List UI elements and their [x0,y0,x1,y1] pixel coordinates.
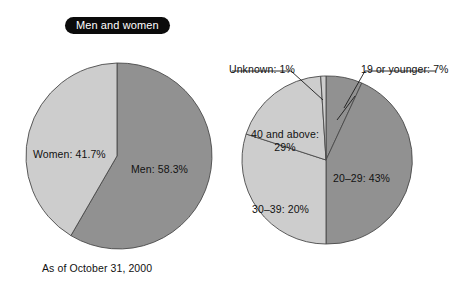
age-groups-pie-chart [0,0,456,294]
pie-label-unknown: Unknown: 1% [229,63,295,76]
pie-label-20-29: 20–29: 43% [333,172,390,185]
pie-label-30-39: 30–39: 20% [252,203,309,216]
pie-label-19-or-younger: 19 or younger: 7% [361,63,449,76]
chart-page: Men and women Women: 41.7% Men: 58.3% As… [0,0,456,294]
pie-label-40-and-above-line1: 40 and above: [251,128,319,140]
pie-label-40-and-above: 40 and above: 29% [244,128,326,153]
pie-label-40-and-above-line2: 29% [274,141,295,153]
